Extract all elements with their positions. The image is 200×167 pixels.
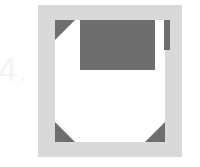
corner-triangle-top-left-icon [55,20,75,40]
figure-canvas: 4. [0,0,200,167]
write-protect-tab-icon [164,20,170,50]
floppy-disk-frame [38,5,182,157]
corner-triangle-bottom-left-icon [55,122,75,142]
corner-triangle-bottom-right-icon [145,122,165,142]
floppy-disk-label-panel [80,20,155,70]
figure-caption: 4. [0,52,42,86]
